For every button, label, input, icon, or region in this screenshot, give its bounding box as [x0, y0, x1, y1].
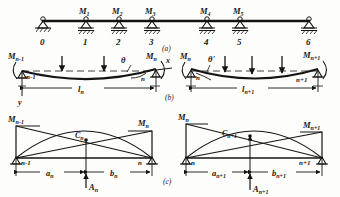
support-label-4: 4	[203, 37, 209, 47]
left-span-moment-left-label: Mn-1	[7, 51, 24, 62]
moment-label-1: M1	[78, 6, 90, 17]
left-area-area-label: An	[88, 182, 99, 193]
support-label-6: 6	[306, 37, 311, 47]
left-span-y-axis-label: y	[17, 98, 22, 107]
left-area-centroid-label: Cn	[75, 131, 84, 141]
left-area-dimension-b	[88, 158, 152, 176]
panel-c-caption: (c)	[163, 177, 172, 186]
left-span-theta-label: θ	[121, 55, 126, 65]
moment-label-3: M3	[144, 6, 156, 17]
panel-c-right-area: Mn Mn+1 n n+1 Cn+1 An+1 an+1 bn+1 (c)	[163, 112, 328, 195]
support-label-2: 2	[115, 37, 121, 47]
right-area-dim-b-label: bn+1	[272, 168, 286, 179]
support-label-5: 5	[237, 37, 242, 47]
right-span-node-left-label: n	[196, 74, 200, 82]
panel-b-left-span: Mn-1 Mn n-1 n θ x y ln	[7, 51, 172, 107]
structural-diagram: 0 1 M1 2 M2 3 M3	[0, 0, 340, 197]
support-4	[199, 17, 215, 34]
right-span-length-label: ln+1	[242, 84, 254, 95]
left-span-moment-arc-left	[13, 62, 17, 79]
moment-label-2: M2	[111, 6, 123, 17]
support-1	[78, 17, 94, 34]
panel-a-caption: (a)	[162, 44, 171, 53]
left-area-moment-right-label: Mn	[137, 118, 150, 129]
left-area-moment-left-label: Mn-1	[7, 114, 24, 125]
left-span-node-left-label: n-1	[26, 73, 36, 81]
support-3	[144, 17, 160, 34]
left-area-dim-a-label: an	[46, 168, 54, 179]
moment-label-4: M4	[199, 6, 211, 17]
panel-b-right-span: Mn Mn+1 n n+1 θ' ln+1 (b)	[165, 50, 327, 102]
right-span-moment-left-label: Mn	[179, 51, 192, 62]
right-area-diagonal-2	[186, 132, 322, 158]
panel-c-left-area: Mn-1 Mn n-1 n Cn An an bn	[7, 114, 158, 193]
left-span-moment-arc-right	[161, 61, 165, 79]
support-0	[35, 17, 51, 32]
right-area-moment-left-label: Mn	[177, 112, 190, 123]
right-span-moment-right-label: Mn+1	[302, 50, 320, 61]
left-span-length-label: ln	[78, 84, 84, 95]
left-span-theta-tick	[127, 65, 131, 72]
support-5	[232, 17, 248, 34]
right-area-node-left-label: n	[191, 159, 195, 167]
support-2	[111, 17, 127, 34]
support-label-3: 3	[148, 37, 154, 47]
right-span-theta-label: θ'	[208, 54, 215, 64]
right-span-moment-arc-left	[182, 62, 186, 79]
panel-a: 0 1 M1 2 M2 3 M3	[35, 6, 317, 53]
right-span-node-right-label: n+1	[296, 76, 307, 84]
moment-label-5: M5	[232, 6, 244, 17]
right-area-dim-a-label: an+1	[212, 168, 226, 179]
support-6	[301, 17, 317, 34]
support-label-0: 0	[40, 37, 45, 47]
right-area-centroid-label: Cn+1	[222, 129, 237, 139]
right-span-moment-arc-right	[323, 61, 327, 79]
right-area-node-right-label: n+1	[299, 159, 310, 167]
left-area-dim-b-label: bn	[110, 168, 118, 179]
panel-b-caption: (b)	[165, 93, 174, 102]
right-area-moment-right-label: Mn+1	[302, 120, 320, 131]
left-area-node-left-label: n-1	[21, 159, 31, 167]
left-span-moment-right-label: Mn	[145, 51, 158, 62]
left-area-node-right-label: n	[138, 159, 142, 167]
right-area-diagonal-1	[186, 124, 322, 158]
right-area-area-label: An+1	[252, 184, 268, 195]
left-span-x-axis-label: x	[165, 56, 170, 65]
support-label-1: 1	[83, 37, 88, 47]
right-area-dimension-b	[252, 158, 322, 176]
figure-canvas: 0 1 M1 2 M2 3 M3	[0, 0, 340, 197]
